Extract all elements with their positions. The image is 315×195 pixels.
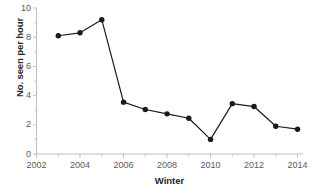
x-axis-tick-label: 2008 bbox=[147, 161, 187, 170]
data-series-line bbox=[58, 20, 297, 140]
y-axis-tick-label: 8 bbox=[9, 33, 31, 42]
data-point-marker bbox=[295, 126, 300, 131]
x-axis-tick-label: 2014 bbox=[278, 161, 315, 170]
x-axis-tick-label: 2012 bbox=[234, 161, 274, 170]
y-axis-tick-label: 0 bbox=[9, 150, 31, 159]
data-point-marker bbox=[186, 116, 191, 121]
y-axis-tick-label: 2 bbox=[9, 120, 31, 129]
chart-container: No. seen per hour Winter 024681020022004… bbox=[0, 0, 315, 195]
y-axis-tick-label: 6 bbox=[9, 62, 31, 71]
data-point-marker bbox=[164, 111, 169, 116]
x-axis-tick-label: 2004 bbox=[60, 161, 100, 170]
data-point-marker bbox=[143, 107, 148, 112]
x-axis-title: Winter bbox=[36, 175, 303, 186]
y-axis-tick-label: 10 bbox=[9, 4, 31, 13]
data-point-marker bbox=[56, 33, 61, 38]
data-point-marker bbox=[230, 101, 235, 106]
data-point-marker bbox=[208, 137, 213, 142]
data-point-marker bbox=[273, 124, 278, 129]
data-point-marker bbox=[99, 17, 104, 22]
x-axis-tick-label: 2006 bbox=[104, 161, 144, 170]
y-axis-tick-label: 4 bbox=[9, 91, 31, 100]
x-axis-tick-label: 2002 bbox=[17, 161, 57, 170]
data-point-marker bbox=[121, 99, 126, 104]
x-axis-tick-label: 2010 bbox=[191, 161, 231, 170]
data-point-marker bbox=[77, 30, 82, 35]
data-point-marker bbox=[251, 104, 256, 109]
